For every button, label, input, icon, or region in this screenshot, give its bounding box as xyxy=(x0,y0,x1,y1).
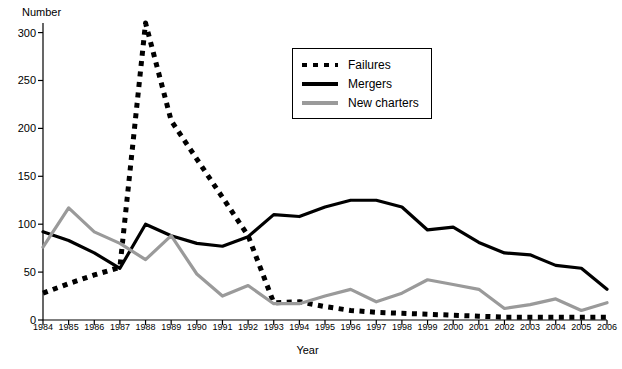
solid-black-line-swatch-icon xyxy=(301,77,339,91)
x-axis-title: Year xyxy=(0,344,615,356)
series-line-mergers xyxy=(43,200,607,289)
series-line-new-charters xyxy=(43,208,607,311)
legend-item-mergers: Mergers xyxy=(301,74,419,93)
legend-label-failures: Failures xyxy=(348,58,391,72)
legend-label-mergers: Mergers xyxy=(348,77,392,91)
solid-gray-line-swatch-icon xyxy=(301,96,339,110)
chart-legend: Failures Mergers New charters xyxy=(292,48,432,119)
legend-item-failures: Failures xyxy=(301,55,419,74)
legend-item-new-charters: New charters xyxy=(301,93,419,112)
legend-label-new-charters: New charters xyxy=(348,96,419,110)
dotted-line-swatch-icon xyxy=(301,58,339,72)
